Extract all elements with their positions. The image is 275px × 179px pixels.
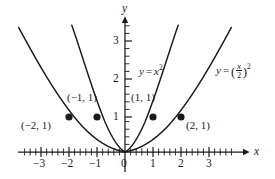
point-label-neg2-1: (−2, 1)	[21, 120, 51, 131]
curve-label-y-equals-x-squared: y=x2	[139, 64, 163, 77]
curve-label-wide-open-paren: (	[231, 64, 235, 79]
point-label-2-1: (2, 1)	[186, 120, 210, 131]
x-tick-label-3: 3	[206, 158, 212, 170]
y-tick-label-3: 3	[113, 35, 119, 47]
point-label-neg1-1: (−1, 1)	[67, 92, 97, 103]
curve-label-wide-fraction: x2	[236, 62, 242, 81]
curve-label-narrow-exponent: 2	[159, 63, 163, 72]
y-axis-major-ticks	[125, 41, 132, 117]
x-tick-label-2: 2	[178, 158, 184, 170]
point-label-1-1: (1, 1)	[131, 92, 155, 103]
x-tick-label-zero: 0	[121, 158, 127, 170]
fraction-denominator: 2	[236, 70, 242, 80]
y-tick-label-2: 2	[113, 73, 119, 85]
plot-canvas	[0, 0, 275, 179]
x-axis-label: x	[254, 146, 259, 158]
x-tick-label-neg1: −1	[89, 158, 101, 170]
point-marker-2-1	[177, 113, 184, 120]
curve-label-wide-equals: =	[223, 64, 229, 76]
curve-label-wide-y: y	[216, 64, 221, 76]
parabola-figure: −3 −2 −1 0 1 2 3 1 2 3 x y (−2, 1) (−1, …	[0, 0, 275, 179]
fraction-numerator: x	[236, 62, 242, 71]
point-marker-neg1-1	[93, 113, 100, 120]
point-marker-1-1	[149, 113, 156, 120]
x-tick-label-neg2: −2	[61, 158, 73, 170]
curve-label-wide-exponent: 2	[247, 62, 251, 71]
curve-label-narrow-y: y	[139, 65, 144, 77]
x-tick-label-neg3: −3	[33, 158, 45, 170]
y-axis-label: y	[122, 3, 127, 15]
point-marker-neg2-1	[65, 113, 72, 120]
curve-label-y-equals-x-over-2-squared: y=(x2)2	[216, 62, 251, 81]
x-tick-label-1: 1	[150, 158, 156, 170]
y-axis-minor-ticks	[125, 26, 130, 145]
curve-label-narrow-equals: =	[146, 65, 152, 77]
y-tick-label-1: 1	[113, 111, 119, 123]
